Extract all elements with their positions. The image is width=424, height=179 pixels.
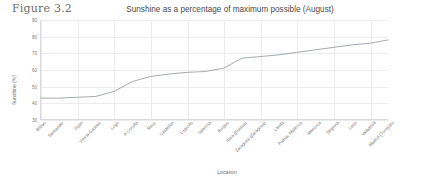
x-axis-tick-label: Castellón	[159, 121, 175, 137]
y-axis-tick-label: 80	[32, 34, 37, 39]
y-axis-tick-label: 30	[32, 118, 37, 123]
y-axis-tick-label: 40	[32, 101, 37, 106]
sunshine-line-series	[41, 20, 388, 120]
chart-plot-wrapper: 30405060708090	[40, 20, 388, 120]
y-axis-label: Sunshine (%)	[11, 74, 17, 104]
x-axis-tick-label: León	[348, 121, 358, 131]
x-axis-tick-label: Logroño	[179, 121, 194, 136]
x-axis-tick-label: Gijón	[73, 121, 83, 131]
x-axis-tick-label: Burgos	[217, 121, 230, 134]
x-axis-tick-label: Segovia	[326, 121, 340, 135]
x-axis-tick-label: A Coruña	[123, 121, 139, 137]
plot-area: 30405060708090	[40, 20, 388, 120]
x-axis-tick-label: Valladolid	[360, 121, 376, 137]
x-axis-tick-label: Santander	[48, 121, 65, 138]
x-axis-tick-label: Lugo	[110, 121, 120, 131]
x-axis-tick-label: Lleida	[274, 121, 285, 132]
y-axis-tick-label: 70	[32, 51, 37, 56]
x-axis-tick-label: Bilbao	[35, 121, 47, 133]
y-axis-tick-label: 60	[32, 68, 37, 73]
chart-title: Sunshine as a percentage of maximum poss…	[0, 5, 424, 14]
y-axis-tick-label: 90	[32, 18, 37, 23]
x-axis-tick-label: Valencia	[197, 121, 212, 136]
x-axis-ticks: BilbaoSantanderGijónVitoria-GasteizLugoA…	[40, 121, 388, 165]
y-axis-tick-label: 50	[32, 84, 37, 89]
x-axis-tick-label: Menorca	[307, 121, 322, 136]
x-axis-tick-label: Reus	[147, 121, 157, 131]
x-axis-label: Location	[0, 169, 424, 175]
